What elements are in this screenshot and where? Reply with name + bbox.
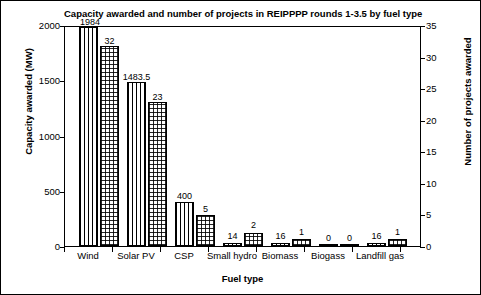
data-label-projects-small-hydro: 2 — [236, 220, 271, 230]
data-label-capacity-wind: 1984 — [70, 17, 110, 27]
data-label-projects-wind: 32 — [92, 36, 127, 46]
data-label-projects-landfill-gas: 1 — [380, 227, 415, 237]
x-category-label-landfill-gas: Landfill gas — [344, 250, 416, 261]
y-axis-right-ticks: 0 5 10 15 20 25 30 35 — [426, 0, 476, 295]
bar-projects-solar-pv — [148, 102, 167, 246]
y-tick-label-right-3: 15 — [426, 147, 466, 157]
y-tick-label-right-6: 30 — [426, 53, 466, 63]
bar-projects-biogass — [340, 244, 359, 246]
bar-projects-csp — [196, 215, 215, 246]
chart-figure: Capacity awarded and number of projects … — [0, 0, 481, 295]
bar-capacity-landfill-gas — [367, 243, 386, 246]
y-tick-label-right-1: 5 — [426, 210, 466, 220]
y-axis-left-ticks: 0 500 1000 1500 2000 — [0, 0, 60, 295]
y-tick-label-left-2: 1000 — [4, 132, 60, 142]
y-tick-label-right-7: 35 — [426, 21, 466, 31]
data-label-capacity-solar-pv: 1483.5 — [112, 72, 161, 82]
y-tick-label-left-4: 2000 — [4, 21, 60, 31]
bar-capacity-biogass — [319, 244, 338, 246]
x-axis-label: Fuel type — [64, 273, 421, 284]
y-tick-label-right-2: 10 — [426, 179, 466, 189]
data-label-capacity-csp: 400 — [166, 191, 203, 201]
y-tick-label-right-4: 20 — [426, 116, 466, 126]
y-tick-label-right-5: 25 — [426, 84, 466, 94]
y-tick-label-left-3: 1500 — [4, 76, 60, 86]
bar-capacity-small-hydro — [223, 243, 242, 246]
data-label-projects-csp: 5 — [188, 204, 223, 214]
bar-capacity-wind — [79, 27, 98, 246]
bar-capacity-solar-pv — [127, 82, 146, 246]
bar-capacity-biomass — [271, 243, 290, 246]
plot-area: 1984 32 1483.5 23 400 5 14 2 16 1 0 0 16… — [64, 26, 421, 247]
data-label-projects-solar-pv: 23 — [140, 92, 175, 102]
y-tick-label-left-0: 0 — [4, 242, 60, 252]
y-tickmark-right-0 — [420, 247, 425, 248]
y-tick-label-left-1: 500 — [4, 187, 60, 197]
data-label-capacity-small-hydro: 14 — [214, 231, 251, 241]
bar-group-container — [65, 27, 420, 246]
y-tick-label-right-0: 0 — [426, 242, 466, 252]
chart-title: Capacity awarded and number of projects … — [64, 8, 421, 20]
